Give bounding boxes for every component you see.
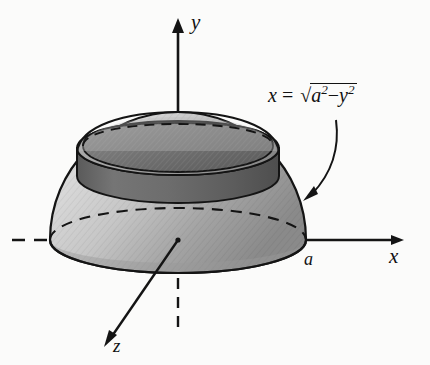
x-intercept-label-a: a <box>304 250 313 268</box>
y-axis <box>172 18 184 112</box>
radicand-minus: − <box>328 84 339 106</box>
figure-canvas: y x z a x = √a2−y2 <box>0 0 430 365</box>
x-axis-label: x <box>389 246 398 267</box>
equation-annotation: x = √a2−y2 <box>268 82 357 107</box>
equation-leader-arrow <box>303 120 337 201</box>
radicand-y: y <box>339 84 348 106</box>
z-axis-label: z <box>113 336 120 355</box>
dome-top-arc <box>77 112 279 152</box>
radical-sign: √ <box>298 84 311 107</box>
radicand: a2−y2 <box>310 83 356 106</box>
y-axis-label: y <box>191 12 200 33</box>
radicand-a: a <box>311 84 321 106</box>
equation-lhs: x <box>268 84 277 106</box>
radicand-y-exponent: 2 <box>348 82 355 97</box>
solid-of-revolution-figure <box>0 0 430 365</box>
origin-point <box>175 237 180 242</box>
equation-equals: = <box>282 84 293 106</box>
radicand-a-exponent: 2 <box>321 82 328 97</box>
